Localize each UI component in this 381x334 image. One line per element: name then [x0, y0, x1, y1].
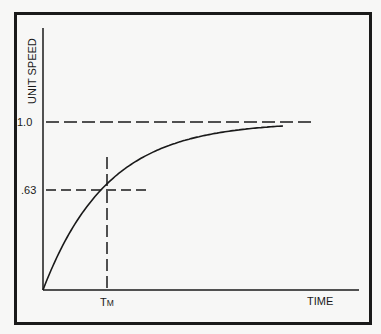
y-tick-label-1-0: 1.0 — [17, 116, 32, 128]
x-axis-label: TIME — [307, 295, 333, 307]
chart-frame — [16, 14, 371, 324]
chart: UNIT SPEED 1.0 .63 TM TIME — [0, 0, 381, 334]
y-axis-label: UNIT SPEED — [26, 38, 38, 104]
y-tick-label-063: .63 — [21, 184, 36, 196]
x-tick-label-tm: TM — [100, 296, 114, 308]
speed-curve — [43, 126, 283, 290]
